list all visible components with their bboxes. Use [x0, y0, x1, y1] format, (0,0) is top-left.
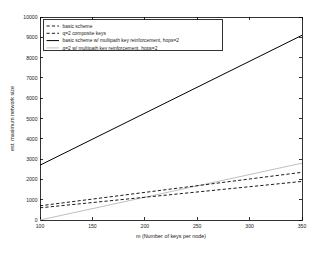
legend-label: q=2 w/ multipath key reinforcement, hops… [63, 46, 158, 51]
x-tick-label: 350 [298, 223, 307, 229]
y-tick-label: 1000 [26, 197, 37, 203]
legend-item-basic-multipath-hops2[interactable]: basic scheme w/ multipath key reinforcem… [47, 38, 180, 43]
y-tick-label: 9000 [26, 34, 37, 40]
y-tick-label: 3000 [26, 156, 37, 162]
legend-label: q=2 composite keys [63, 31, 107, 36]
y-tick-label: 4000 [26, 136, 37, 142]
y-tick-label: 6000 [26, 95, 37, 101]
x-tick-label: 100 [36, 223, 45, 229]
legend-label: basic scheme [63, 24, 93, 29]
figure-container: 0 1000 2000 3000 4000 [0, 0, 325, 261]
legend[interactable]: basic scheme q=2 composite keys basic sc… [43, 20, 222, 51]
y-tick-label: 8000 [26, 55, 37, 61]
y-tick-label: 7000 [26, 75, 37, 81]
x-tick-label: 250 [193, 223, 202, 229]
y-tick-label: 2000 [26, 176, 37, 182]
y-tick-label: 10000 [23, 14, 37, 20]
chart-canvas: 0 1000 2000 3000 4000 [0, 0, 325, 261]
x-axis-label: m (Number of keys per node) [136, 233, 206, 239]
y-tick-label: 5000 [26, 116, 37, 122]
legend-item-q2-multipath-hops2[interactable]: q=2 w/ multipath key reinforcement, hops… [47, 46, 158, 51]
x-tick-label: 300 [245, 223, 254, 229]
x-tick-label: 200 [141, 223, 150, 229]
y-axis-label: est. maximum network size [9, 86, 15, 151]
x-tick-label: 150 [88, 223, 97, 229]
legend-label: basic scheme w/ multipath key reinforcem… [63, 38, 180, 43]
